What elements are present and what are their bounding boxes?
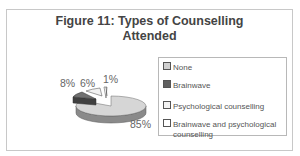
legend-swatch-icon — [163, 80, 171, 88]
legend-label: Psychological counselling — [173, 102, 264, 111]
legend-item-brainwave-psych: Brainwave and psychological counselling — [163, 119, 276, 140]
legend-swatch-icon — [163, 119, 171, 127]
legend-label: Brainwave and psychological — [173, 120, 276, 129]
label-psychological: 6% — [80, 77, 95, 89]
legend-item-none: None — [163, 62, 192, 73]
chart-legend: None Brainwave Psychological counselling… — [158, 57, 287, 136]
legend-item-brainwave: Brainwave — [163, 80, 210, 91]
legend-label-cont: counselling — [173, 130, 213, 139]
legend-item-psychological: Psychological counselling — [163, 101, 264, 112]
label-none: 85% — [130, 118, 151, 130]
legend-label: None — [173, 63, 192, 72]
label-brainwave-psych: 1% — [103, 73, 118, 85]
legend-label: Brainwave — [173, 81, 210, 90]
slice-psychological — [86, 88, 102, 96]
legend-swatch-icon — [163, 101, 171, 109]
label-brainwave: 8% — [60, 77, 75, 89]
legend-swatch-icon — [163, 62, 171, 70]
